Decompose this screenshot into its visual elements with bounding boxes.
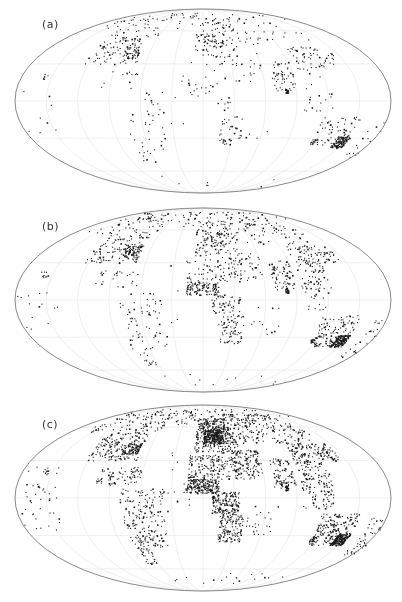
mollweide-map-a bbox=[0, 0, 402, 200]
panel-label-c: (c) bbox=[42, 418, 58, 431]
mollweide-map-b bbox=[0, 200, 402, 400]
map-panel-c: (c) bbox=[0, 398, 402, 602]
panel-label-b: (b) bbox=[42, 220, 59, 233]
mollweide-map-c bbox=[0, 398, 402, 602]
map-panel-a: (a) bbox=[0, 0, 402, 200]
panel-label-a: (a) bbox=[42, 18, 59, 31]
map-panel-b: (b) bbox=[0, 200, 402, 400]
